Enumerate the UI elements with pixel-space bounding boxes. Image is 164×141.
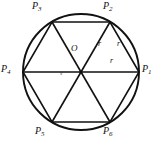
radius-label-2: r — [117, 40, 120, 48]
radius-o-p2 — [81, 22, 110, 72]
vertex-label-p5: P5 — [35, 126, 45, 138]
vertex-label-p2: P2 — [103, 1, 113, 13]
vertex-label-p6: P6 — [103, 126, 113, 138]
center-point-dot — [79, 70, 82, 73]
vertex-label-p3: P3 — [32, 1, 42, 13]
radius-o-p5 — [52, 72, 81, 122]
vertex-label-p4: P4 — [1, 64, 11, 76]
radius-label-3: r — [110, 57, 113, 65]
vertex-label-p1: P1 — [142, 64, 152, 76]
radius-o-p6 — [81, 72, 110, 122]
radius-label-1: r — [98, 40, 101, 48]
center-point-label: O — [71, 44, 78, 53]
geometry-figure: P1 P2 P3 P4 P5 P6 O r r r s — [0, 0, 164, 141]
geometry-canvas — [0, 0, 164, 141]
side-label-1: s — [60, 70, 62, 76]
